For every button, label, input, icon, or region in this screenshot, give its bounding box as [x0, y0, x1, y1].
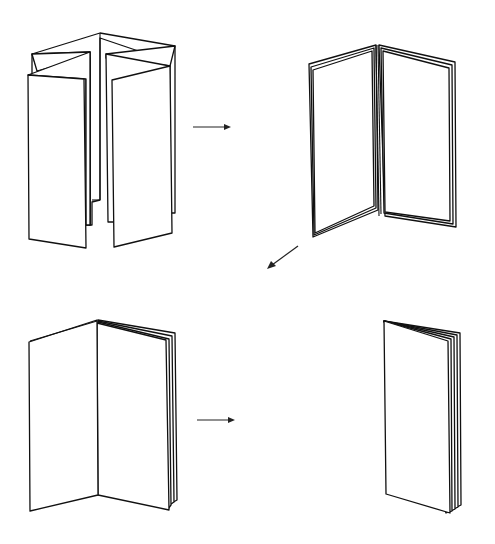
- step-1-signatures: [28, 33, 175, 248]
- arrow-down-left: [267, 246, 298, 269]
- step-3-open-booklet: [29, 320, 177, 511]
- step-4-closed-booklet: [384, 321, 461, 513]
- step-2-nested-booklet: [309, 45, 456, 237]
- arrow-right-2: [197, 417, 235, 423]
- arrow-right-1: [193, 124, 231, 130]
- folding-diagram: [0, 0, 495, 544]
